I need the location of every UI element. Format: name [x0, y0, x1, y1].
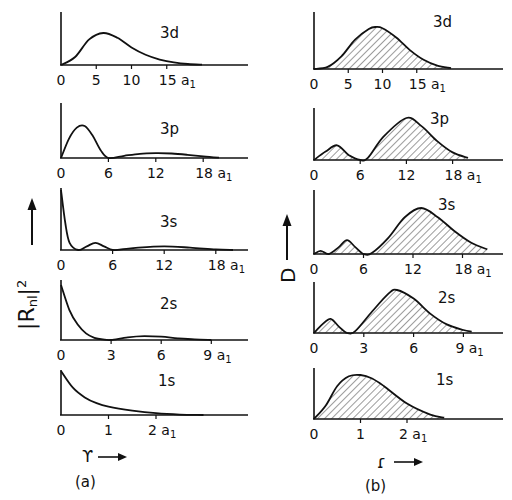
- x-tick-label: 3: [107, 348, 116, 362]
- subplot-3p: [313, 108, 503, 164]
- panel-b-plots: [313, 12, 503, 423]
- x-tick-label: 2 a1: [148, 423, 176, 440]
- x-tick-label: 12: [397, 168, 415, 182]
- subplot-2s: [60, 280, 248, 344]
- x-tick-label: 1: [356, 427, 365, 441]
- x-tick-label: 0: [310, 262, 319, 276]
- orbital-label-2s: 2s: [438, 291, 455, 306]
- panel-a-y-axis-label: |Rnl|2: [14, 280, 40, 330]
- panel-a-x-axis-label: ϒ: [82, 449, 93, 465]
- subplot-1s: [60, 370, 248, 419]
- panel-a-caption: (a): [75, 475, 96, 490]
- orbital-label-3d: 3d: [160, 26, 179, 41]
- orbital-label-1s: 1s: [158, 374, 175, 389]
- orbital-label-2s: 2s: [160, 297, 177, 312]
- subplot-3s: [60, 188, 248, 254]
- x-tick-label: 18 a1: [195, 166, 232, 183]
- orbital-label-3p: 3p: [160, 122, 179, 137]
- x-tick-label: 0: [310, 341, 319, 355]
- panel-b-y-arrow-icon: [283, 214, 292, 260]
- curve-3p: [61, 125, 219, 158]
- orbital-label-3p: 3p: [430, 112, 449, 127]
- curve-2s: [61, 285, 211, 340]
- subplot-3s: [313, 190, 503, 258]
- x-tick-label: 2 a1: [399, 427, 427, 444]
- x-tick-label: 18 a1: [445, 168, 482, 185]
- x-tick-label: 6: [157, 348, 166, 362]
- x-tick-label: 6: [356, 168, 365, 182]
- x-tick-label: 6: [409, 341, 418, 355]
- x-tick-label: 1: [104, 423, 113, 437]
- orbital-label-3d: 3d: [433, 15, 452, 30]
- hatched-area: [314, 208, 487, 255]
- x-tick-label: 0: [57, 73, 66, 87]
- x-tick-label: 0: [57, 423, 66, 437]
- x-tick-label: 0: [57, 348, 66, 362]
- x-tick-label: 18 a1: [208, 258, 245, 275]
- x-tick-label: 18 a1: [455, 262, 492, 279]
- subplot-1s: [313, 368, 503, 423]
- x-tick-label: 5: [92, 73, 101, 87]
- orbital-label-3s: 3s: [438, 198, 455, 213]
- curve-1s: [61, 371, 204, 415]
- panel-b-x-arrow-icon: [394, 458, 423, 466]
- panel-b-x-axis-label: ɾ: [377, 454, 386, 471]
- curve-3s: [61, 190, 233, 250]
- x-tick-label: 0: [310, 168, 319, 182]
- x-tick-label: 12: [155, 258, 173, 272]
- x-tick-label: 0: [57, 166, 66, 180]
- x-tick-label: 9 a1: [455, 341, 483, 358]
- orbital-label-3s: 3s: [160, 215, 177, 230]
- x-tick-label: 6: [359, 262, 368, 276]
- panel-b-y-axis-label: D: [276, 268, 300, 283]
- curve-3d: [61, 33, 202, 65]
- x-tick-label: 0: [310, 77, 319, 91]
- subplot-3d: [313, 12, 503, 73]
- panel-a-x-arrow-icon: [98, 453, 127, 461]
- x-tick-label: 0: [57, 258, 66, 272]
- orbital-figure: [0, 0, 512, 500]
- x-tick-label: 12: [404, 262, 422, 276]
- panel-b-caption: (b): [365, 479, 386, 494]
- x-tick-label: 3: [359, 341, 368, 355]
- orbital-label-1s: 1s: [436, 373, 453, 388]
- panel-a-y-arrow-icon: [28, 198, 37, 245]
- subplot-2s: [313, 282, 503, 337]
- subplot-3d: [60, 12, 248, 69]
- x-tick-label: 15 a1: [159, 73, 196, 90]
- subplot-3p: [60, 103, 248, 162]
- x-tick-label: 12: [147, 166, 165, 180]
- x-tick-label: 10: [123, 73, 141, 87]
- x-tick-label: 5: [344, 77, 353, 91]
- x-tick-label: 15 a1: [409, 77, 446, 94]
- x-tick-label: 6: [108, 258, 117, 272]
- x-tick-label: 9 a1: [203, 348, 231, 365]
- x-tick-label: 0: [310, 427, 319, 441]
- x-tick-label: 6: [104, 166, 113, 180]
- x-tick-label: 10: [374, 77, 392, 91]
